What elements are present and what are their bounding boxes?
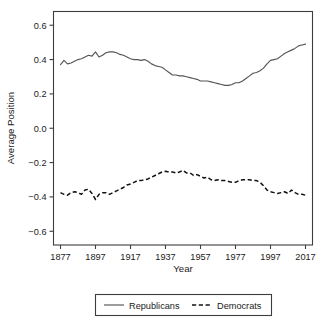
y-axis: 0.60.40.20.0−0.2−0.4−0.6 (28, 21, 53, 237)
y-tick-label: −0.6 (28, 227, 46, 237)
y-tick-label: 0.2 (34, 89, 47, 99)
series-line-democrats (61, 170, 306, 199)
y-tick-label: −0.2 (28, 158, 46, 168)
x-tick-label: 2017 (295, 252, 315, 262)
x-tick-label: 1977 (225, 252, 245, 262)
chart-figure: 0.60.40.20.0−0.2−0.4−0.6 187718971917193… (0, 0, 330, 323)
x-axis: 18771897191719371957197719972017 (50, 245, 315, 262)
average-position-line-chart: 0.60.40.20.0−0.2−0.4−0.6 187718971917193… (0, 0, 330, 323)
x-tick-label: 1937 (155, 252, 175, 262)
plot-frame (54, 12, 313, 246)
x-tick-label: 1877 (50, 252, 70, 262)
legend-label-republicans: Republicans (129, 301, 180, 311)
y-axis-title: Average Position (5, 92, 16, 164)
x-tick-label: 1997 (260, 252, 280, 262)
x-axis-title: Year (173, 263, 193, 274)
y-tick-label: −0.4 (28, 192, 46, 202)
x-tick-label: 1897 (85, 252, 105, 262)
x-tick-label: 1917 (120, 252, 140, 262)
y-tick-label: 0.6 (34, 21, 47, 31)
series-line-republicans (61, 44, 306, 85)
legend-label-democrats: Democrats (217, 301, 262, 311)
y-tick-label: 0.0 (34, 124, 47, 134)
y-tick-label: 0.4 (34, 55, 47, 65)
x-tick-label: 1957 (190, 252, 210, 262)
chart-legend: Republicans Democrats (96, 295, 272, 316)
